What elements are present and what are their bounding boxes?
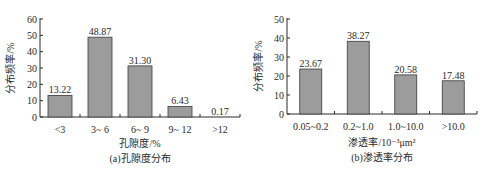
bar-value-label: 23.67 (300, 58, 323, 69)
chart-permeability: 0102030405023.670.05~0.238.270.2~1.020.5… (252, 14, 477, 165)
x-axis-title: 渗透率/10⁻³μm² (348, 136, 415, 148)
bar-value-label: 31.30 (129, 55, 152, 66)
bar (442, 81, 464, 114)
y-tick-label: 20 (274, 71, 284, 82)
bar-value-label: 20.58 (395, 64, 418, 75)
chart-caption: (b)渗透率分布 (351, 151, 413, 164)
chart-caption: (a)孔隙度分布 (109, 152, 170, 165)
bar-value-label: 48.87 (89, 26, 112, 37)
x-category-label: >10.0 (442, 121, 465, 132)
bar-value-label: 6.43 (171, 95, 189, 106)
bar-value-label: 38.27 (347, 30, 370, 41)
x-category-label: 9~ 12 (169, 124, 192, 135)
x-category-label: 3~ 6 (91, 124, 109, 135)
bar (88, 37, 112, 117)
y-tick-label: 40 (27, 46, 37, 57)
y-tick-label: 10 (274, 90, 284, 101)
x-category-label: 0.05~0.2 (293, 121, 328, 132)
bar-value-label: 0.17 (211, 106, 229, 117)
chart-porosity: 010203040506013.22<348.873~ 631.306~ 96.… (4, 14, 240, 166)
bar-value-label: 13.22 (49, 84, 72, 95)
y-tick-label: 0 (32, 112, 37, 123)
bar (347, 41, 369, 114)
y-tick-label: 50 (274, 14, 284, 25)
y-axis-title: 分布频率/% (252, 40, 264, 91)
bar (300, 69, 322, 114)
y-tick-label: 0 (279, 109, 284, 120)
x-axis-title: 孔隙度/% (119, 137, 160, 149)
bar-value-label: 17.48 (442, 70, 465, 81)
y-tick-label: 30 (274, 52, 284, 63)
y-axis-title: 分布频率/% (4, 42, 16, 93)
x-category-label: 1.0~10.0 (388, 121, 423, 132)
x-category-label: 6~ 9 (131, 124, 149, 135)
y-tick-label: 40 (274, 33, 284, 44)
bar (168, 106, 192, 117)
y-tick-label: 30 (27, 63, 37, 74)
y-tick-label: 60 (27, 14, 37, 25)
x-category-label: 0.2~1.0 (343, 121, 373, 132)
x-category-label: >12 (212, 124, 228, 135)
y-tick-label: 50 (27, 30, 37, 41)
bar (48, 95, 72, 117)
y-tick-label: 20 (27, 79, 37, 90)
chart-canvas: 010203040506013.22<348.873~ 631.306~ 96.… (0, 0, 493, 173)
bar (128, 66, 152, 117)
y-tick-label: 10 (27, 95, 37, 106)
bar (395, 75, 417, 114)
x-category-label: <3 (55, 124, 66, 135)
